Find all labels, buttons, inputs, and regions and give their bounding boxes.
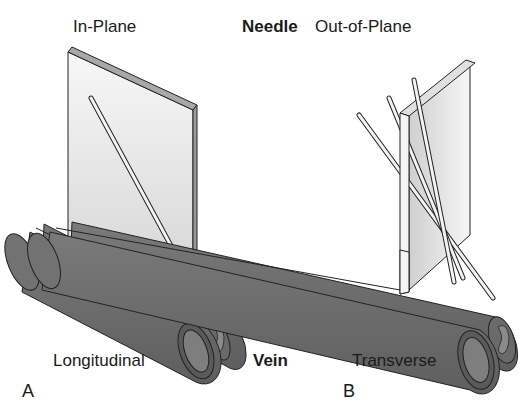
panel-a-illustration bbox=[0, 47, 246, 384]
vein-heading: Vein bbox=[253, 352, 288, 369]
panel-b-vein-label: Transverse bbox=[352, 352, 436, 369]
panel-a-letter: A bbox=[22, 382, 34, 400]
needle-heading: Needle bbox=[242, 18, 298, 35]
plane-edge-b-lower bbox=[400, 250, 409, 294]
panel-a-vein-label: Longitudinal bbox=[53, 352, 145, 369]
panel-b-letter: B bbox=[343, 382, 355, 400]
panel-a-needle-label: In-Plane bbox=[73, 18, 136, 35]
panel-b-needle-label: Out-of-Plane bbox=[315, 18, 411, 35]
